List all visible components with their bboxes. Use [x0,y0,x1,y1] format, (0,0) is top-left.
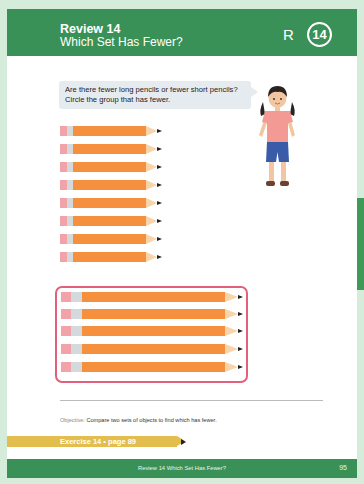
short-pencil [60,126,162,136]
page-number: 95 [339,464,347,471]
objective-note: Objective: Compare two sets of objects t… [60,417,217,423]
exercise-label[interactable]: Exercise 14 • page 89 [60,437,136,446]
prompt-line-1: Are there fewer long pencils or fewer sh… [65,85,245,95]
objective-label: Objective: [60,417,85,423]
long-pencil [61,362,243,372]
speech-bubble: Are there fewer long pencils or fewer sh… [59,81,251,109]
short-pencil [60,144,162,154]
short-pencil [60,198,162,208]
short-pencil [60,180,162,190]
prompt-line-2: Circle the group that has fewer. [65,95,245,105]
objective-text: Compare two sets of objects to find whic… [86,417,216,423]
long-pencil [61,309,243,319]
header-banner: Review 14 Which Set Has Fewer? R 14 [7,9,357,56]
long-pencil [61,292,243,302]
long-pencil [61,326,243,336]
review-number-badge: 14 [307,22,332,47]
girl-icon [255,80,300,190]
page-subtitle: Which Set Has Fewer? [60,36,183,49]
footer-banner: Review 14 Which Set Has Fewer? 95 [7,459,357,478]
review-letter: R [283,27,294,43]
long-pencil [61,344,243,354]
short-pencil [60,234,162,244]
exercise-pencil-lead-icon [181,439,186,445]
divider [60,400,323,401]
short-pencil [60,252,162,262]
footer-title: Review 14 Which Set Has Fewer? [7,465,357,471]
side-tab [357,198,364,290]
short-pencil [60,216,162,226]
short-pencil [60,162,162,172]
